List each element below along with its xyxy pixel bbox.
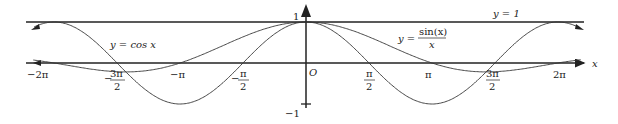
function-graph: 1 −1 O x −2π − 3π 2 −π − π 2 π 2 π 3π 2 … <box>0 0 618 124</box>
y-tick-label-minus-1: −1 <box>285 108 300 119</box>
tick-pi2-num: π <box>366 68 373 79</box>
tick-neg-pi2-den: 2 <box>240 81 246 92</box>
tick-neg-3pi2-den: 2 <box>114 81 120 92</box>
sinc-label-lhs: y = <box>397 33 415 44</box>
y-axis-arrow-icon <box>301 4 311 17</box>
tick-neg-pi2-num: π <box>240 68 247 79</box>
tick-neg-2pi: −2π <box>27 69 49 80</box>
origin-label: O <box>309 67 317 78</box>
tick-pi: π <box>425 69 432 80</box>
cos-left-arrow-icon <box>31 24 40 30</box>
tick-2pi: 2π <box>553 69 566 80</box>
tick-3pi2-num: 3π <box>486 68 499 79</box>
tick-pi2-den: 2 <box>366 81 372 92</box>
tick-neg-pi: −π <box>170 69 185 80</box>
sinc-label-num: sin(x) <box>419 26 447 37</box>
tick-3pi2-den: 2 <box>489 81 495 92</box>
tick-neg-3pi2-num: 3π <box>110 68 123 79</box>
y-tick-label-1: 1 <box>293 11 299 22</box>
sinc-label-den: x <box>429 39 435 50</box>
x-axis-label: x <box>592 58 598 69</box>
line-y1-label: y = 1 <box>492 8 520 19</box>
cos-right-arrow-icon <box>575 24 584 30</box>
tick-neg-pi2-sign: − <box>231 73 239 84</box>
cos-curve-label: y = cos x <box>109 39 156 50</box>
